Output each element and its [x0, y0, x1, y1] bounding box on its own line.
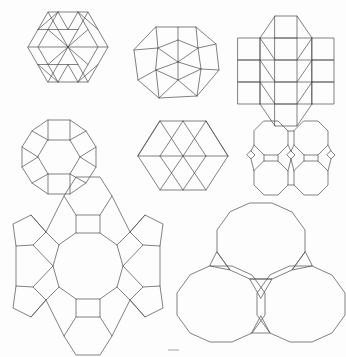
- figure-hexagon-square-ring-patch: [13, 177, 163, 355]
- figure-hexagon-triangle-band-patch: [138, 121, 228, 190]
- caption-mark: [168, 349, 179, 351]
- figure-dodecagon-rosette-patch: [22, 120, 96, 194]
- figure-octagon-square-quad-patch: [247, 121, 335, 195]
- tiling-figure-plate: [0, 0, 346, 357]
- figure-square-triangle-grid-patch: [238, 16, 334, 126]
- figure-hexagon-triangle-patch: [28, 12, 108, 82]
- figure-three-dodecagon-patch: [177, 203, 345, 342]
- tiling-diagram-canvas: [0, 0, 346, 357]
- figure-decagon-fan-patch: [134, 27, 219, 98]
